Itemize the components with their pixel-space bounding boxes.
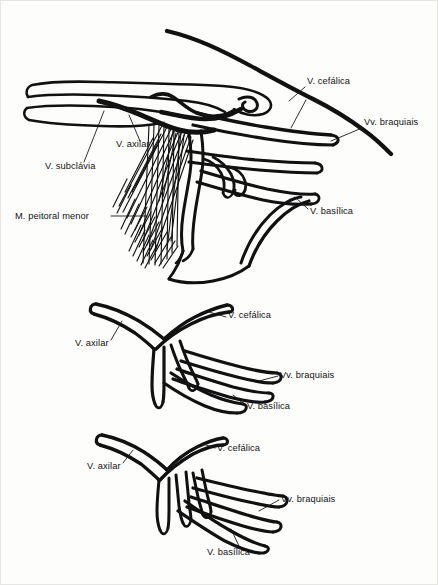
label-basilica-middle: V. basílica — [247, 401, 291, 411]
subclavian-vein-left-end-top — [24, 85, 32, 120]
axillary-vein-cap-middle — [90, 304, 96, 314]
main-trunk-wall2-middle — [163, 347, 164, 402]
leader-braquiais-top — [331, 128, 362, 141]
brachial-vein-upper-wall2-bottom — [193, 488, 279, 507]
axillary-vein-middle — [96, 304, 164, 339]
label-cefalica-middle: V. cefálica — [228, 310, 272, 320]
label-axilar-middle: V. axilar — [75, 338, 109, 348]
subclavian-vein-bottom-wall-top — [29, 120, 161, 126]
label-cefalica-top: V. cefálica — [307, 76, 351, 86]
label-basilica-bottom: V. basílica — [207, 547, 251, 557]
label-braquiais-top: Vv. braquiais — [364, 117, 419, 127]
panel-bottom-drawing: V. cefálica V. axilar Vv. braquiais V. b… — [87, 435, 336, 557]
lateral-thoracic-branch-top — [193, 131, 203, 249]
descending-branch-2-tip-bottom — [183, 520, 191, 526]
label-cefalica-bottom: V. cefálica — [217, 443, 261, 453]
label-subclavia-top: V. subclávia — [45, 161, 96, 171]
descending-branch-1-wall2-bottom — [168, 478, 169, 528]
leader-subclavia-top — [84, 111, 104, 162]
lower-arc-vein-top — [249, 201, 309, 266]
main-trunk-middle — [152, 349, 155, 404]
label-axilar-bottom: V. axilar — [87, 461, 121, 471]
label-braquiais-bottom: Vv. braquiais — [281, 494, 336, 504]
subclavian-vein-third-wall-top — [27, 106, 161, 112]
leader-braquiais-top-2 — [291, 100, 306, 128]
descending-branch-2-bottom — [176, 475, 183, 523]
small-branch-tip-top — [223, 193, 233, 198]
descending-branch-1-bottom — [157, 480, 160, 530]
label-basilica-top: V. basílica — [310, 206, 354, 216]
panel-top-drawing: V. cefálica Vv. braquiais V. axilar V. s… — [15, 31, 419, 283]
basilic-vein-top — [201, 171, 315, 194]
label-braquiais-middle: Vv. braquiais — [280, 370, 335, 380]
panel-middle-drawing: V. cefálica V. axilar Vv. braquiais V. b… — [75, 304, 335, 413]
brachial-vein-lower-cap-bottom — [273, 522, 281, 532]
leader-axilar-top — [129, 115, 140, 141]
leader-braquiais-middle — [259, 376, 278, 381]
label-peitoral-menor-top: M. peitoral menor — [15, 211, 89, 221]
axillary-vein-cap-bottom — [96, 435, 102, 445]
brachial-vein-upper-middle — [185, 351, 277, 373]
label-axilar-top: V. axilar — [116, 139, 150, 149]
descending-branch-1-tip-bottom — [160, 528, 168, 534]
figure-page: V. cefálica Vv. braquiais V. axilar V. s… — [0, 0, 438, 585]
bottom-curve-top — [169, 266, 249, 283]
anatomical-figure: V. cefálica Vv. braquiais V. axilar V. s… — [1, 1, 438, 585]
